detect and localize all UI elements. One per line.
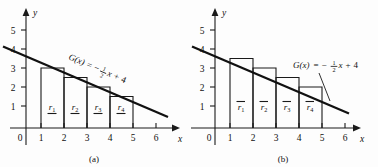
x-ticklabel-2-b: 2 <box>251 133 256 143</box>
fraction-numerator-b: 1 <box>332 59 335 66</box>
rectangle-label-rbar2-b: r2 <box>261 102 268 113</box>
rectangle-label-group-b: r1 r2 r3 r4 <box>237 102 315 114</box>
rectangle-label-r1-a: r1 <box>49 102 56 113</box>
fraction-denominator-b: 2 <box>332 66 335 73</box>
rectangle-label-rbar1-b: r1 <box>238 102 245 113</box>
rectangle-r2-a <box>64 78 87 129</box>
x-axis-arrow-b <box>353 125 361 132</box>
function-label-a: G(x)=− 1 2 x+4 <box>66 51 129 89</box>
rectangle-label-rbar4-b: r4 <box>307 102 315 113</box>
x-ticklabel-3-a: 3 <box>85 133 90 143</box>
x-ticklabel-1-a: 1 <box>39 133 44 143</box>
x-axis-arrow-a <box>172 125 180 132</box>
x-ticklabel-2-a: 2 <box>62 133 67 143</box>
y-axis-arrow-b <box>212 8 219 16</box>
rectangle-label-r4-a: r4 <box>118 102 126 113</box>
x-ticklabel-5-b: 5 <box>320 133 325 143</box>
fraction-denominator-a: 2 <box>99 71 105 79</box>
rectangle-rbar3-b <box>276 78 299 129</box>
x-axis-label-a: x <box>177 134 183 144</box>
y-axis-arrow-a <box>23 8 30 16</box>
y-ticklabel-3-b: 3 <box>200 64 205 74</box>
y-ticklabel-2-a: 2 <box>11 83 16 93</box>
x-ticklabel-6-b: 6 <box>343 133 348 143</box>
rectangle-group-a <box>41 68 133 128</box>
svg-text:G(x)=−: G(x)=− <box>293 60 327 70</box>
figure-riemann-sums: 1 2 3 4 5 0 1 2 3 4 5 6 y x <box>0 0 378 167</box>
rectangle-rbar1-b <box>230 59 253 129</box>
y-ticklabel-5-a: 5 <box>11 26 16 36</box>
y-axis-label-b: y <box>221 8 227 18</box>
svg-text:x+4: x+4 <box>105 68 128 85</box>
y-axis-label-a: y <box>32 8 38 18</box>
svg-text:G(x)=−: G(x)=− <box>67 52 101 74</box>
x-ticklabel-6-a: 6 <box>154 133 159 143</box>
function-line-b <box>192 47 349 114</box>
rectangle-label-r2-a: r2 <box>72 102 79 113</box>
x-ticklabel-3-b: 3 <box>274 133 279 143</box>
rectangle-r1-a <box>41 68 64 128</box>
rectangle-label-r3-a: r3 <box>95 102 102 113</box>
svg-text:x+4: x+4 <box>338 60 359 70</box>
x-ticklabel-4-b: 4 <box>297 133 302 143</box>
x-ticklabel-4-a: 4 <box>108 133 113 143</box>
panel-a: 1 2 3 4 5 0 1 2 3 4 5 6 y x <box>0 0 189 167</box>
y-ticklabel-2-b: 2 <box>200 83 205 93</box>
y-ticklabel-1-a: 1 <box>11 102 16 112</box>
function-label-b: G(x)=− 1 2 x+4 <box>293 59 359 73</box>
x-ticklabel-1-b: 1 <box>228 133 233 143</box>
x-ticklabel-5-a: 5 <box>131 133 136 143</box>
rectangle-label-rbar3-b: r3 <box>284 102 291 113</box>
x-ticklabel-0-a: 0 <box>18 133 23 143</box>
x-axis-label-b: x <box>359 134 365 144</box>
y-ticklabel-1-b: 1 <box>200 102 205 112</box>
caption-a: (a) <box>89 154 99 164</box>
x-ticklabel-0-b: 0 <box>207 133 212 143</box>
y-ticklabel-3-a: 3 <box>11 64 16 74</box>
panel-b: 1 2 3 4 5 0 1 2 3 4 5 6 y x <box>189 0 378 167</box>
caption-b: (b) <box>278 154 289 164</box>
y-ticklabel-5-b: 5 <box>200 26 205 36</box>
